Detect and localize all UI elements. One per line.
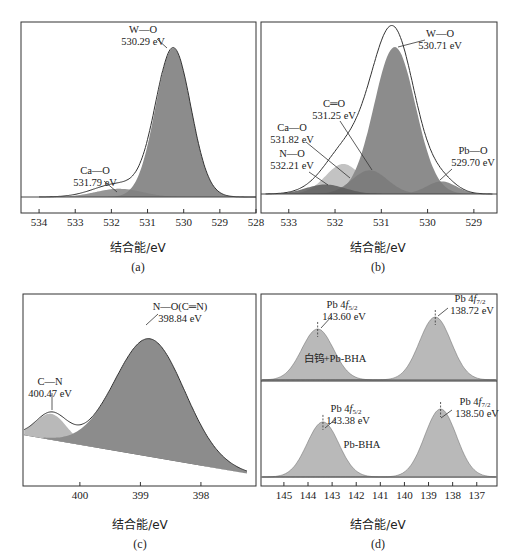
annotation-pb-4f-7-2-bottom: Pb 4f7/2138.50 eV xyxy=(441,396,499,419)
x-tick-label: 143 xyxy=(324,489,341,501)
x-tick-label: 137 xyxy=(469,489,486,501)
x-tick-label: 145 xyxy=(276,489,293,501)
annotation-pb-4f-5-2-top: Pb 4f5/2143.60 eV xyxy=(321,299,366,328)
x-tick-label: 139 xyxy=(420,489,437,501)
x-tick-label: 142 xyxy=(348,489,365,501)
x-tick-label: 140 xyxy=(396,489,413,501)
annotation-pb-4f-7-2-top: Pb 4f7/2138.72 eV xyxy=(438,293,494,316)
svg-text:138.50 eV: 138.50 eV xyxy=(455,408,499,419)
x-tick-label: 138 xyxy=(444,489,461,501)
spectrum-bottom: Pb-BHAPb 4f5/2143.38 eVPb 4f7/2138.50 eV xyxy=(261,396,499,477)
svg-text:143.38 eV: 143.38 eV xyxy=(326,415,370,426)
svg-text:143.60 eV: 143.60 eV xyxy=(322,311,366,322)
x-axis-label-d: 结合能/eV xyxy=(318,515,438,532)
x-tick-label: 144 xyxy=(300,489,317,501)
svg-text:138.72 eV: 138.72 eV xyxy=(450,305,494,316)
annotation-pb-4f-5-2-bottom: Pb 4f5/2143.38 eV xyxy=(325,403,370,428)
x-axis-label-c: 结合能/eV xyxy=(80,515,200,532)
sample-label-top: 白钨+Pb-BHA xyxy=(304,352,367,364)
panel-label-c: (c) xyxy=(120,537,160,552)
spectrum-top: 白钨+Pb-BHAPb 4f5/2143.60 eVPb 4f7/2138.72… xyxy=(261,293,497,380)
x-tick-label: 141 xyxy=(372,489,389,501)
chart-panel-d: 145144143142141140139138137白钨+Pb-BHAPb 4… xyxy=(0,0,515,510)
panel-label-d: (d) xyxy=(358,537,398,552)
sample-label-bottom: Pb-BHA xyxy=(344,439,381,450)
